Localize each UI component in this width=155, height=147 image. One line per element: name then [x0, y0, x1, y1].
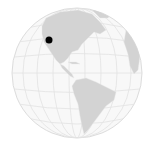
globe-map: [0, 0, 155, 147]
location-marker[interactable]: [46, 37, 53, 44]
